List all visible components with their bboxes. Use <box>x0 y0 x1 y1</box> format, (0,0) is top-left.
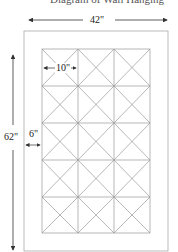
block-label: 10" <box>55 63 71 73</box>
block-grid <box>42 49 150 233</box>
height-label: 62" <box>3 132 19 142</box>
quilt-diagram <box>0 0 178 252</box>
border-label: 6" <box>28 129 39 139</box>
width-label: 42" <box>89 15 105 25</box>
